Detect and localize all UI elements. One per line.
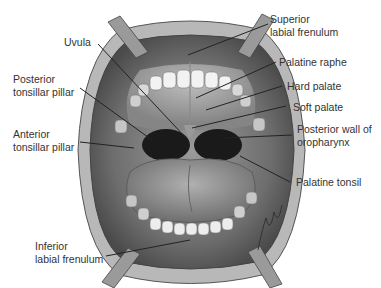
label-superior-labial-frenulum: Superior labial frenulum bbox=[270, 13, 338, 38]
label-soft-palate: Soft palate bbox=[293, 101, 343, 114]
label-palatine-raphe: Palatine raphe bbox=[279, 56, 347, 69]
label-posterior-wall-of-oropharynx: Posterior wall of oropharynx bbox=[297, 123, 372, 148]
label-palatine-tonsil: Palatine tonsil bbox=[296, 176, 361, 189]
label-uvula: Uvula bbox=[64, 36, 91, 49]
label-hard-palate: Hard palate bbox=[287, 80, 341, 93]
label-inferior-labial-frenulum: Inferior labial frenulum bbox=[35, 240, 103, 265]
label-anterior-tonsillar-pillar: Anterior tonsillar pillar bbox=[13, 128, 74, 153]
anatomy-figure: Uvula Posterior tonsillar pillar Anterio… bbox=[0, 0, 381, 288]
label-posterior-tonsillar-pillar: Posterior tonsillar pillar bbox=[13, 73, 74, 98]
